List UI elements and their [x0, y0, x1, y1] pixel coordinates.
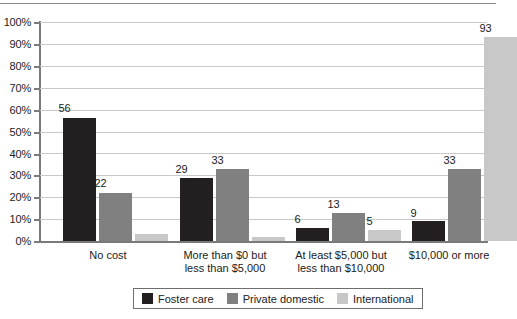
- x-axis-category-label-over-10000: $10,000 or more: [386, 249, 512, 262]
- y-axis-tick-label-30: 30%: [0, 169, 31, 181]
- bar-no-cost-private-domestic[interactable]: [99, 193, 132, 241]
- y-axis-tick-label-60: 60%: [0, 104, 31, 116]
- legend-swatch-international-icon: [337, 293, 348, 304]
- chart-legend: Foster care Private domestic Internation…: [133, 288, 423, 309]
- y-axis-tick-label-100: 100%: [0, 16, 31, 28]
- y-axis-tick-label-40: 40%: [0, 148, 31, 160]
- y-axis-tick-label-10: 10%: [0, 213, 31, 225]
- bar-value-no-cost-private-domestic: 22: [84, 177, 117, 189]
- gridline-60: [40, 110, 487, 111]
- legend-label-private-domestic: Private domestic: [243, 293, 324, 305]
- legend-item-private-domestic[interactable]: Private domestic: [227, 293, 324, 305]
- y-axis-tick-label-50: 50%: [0, 126, 31, 138]
- gridline-90: [40, 44, 487, 45]
- bar-under-5000-private-domestic[interactable]: [216, 169, 249, 241]
- legend-item-foster-care[interactable]: Foster care: [142, 293, 214, 305]
- bar-value-over-10000-foster-care: 9: [397, 207, 430, 219]
- gridline-50: [40, 132, 487, 133]
- bar-value-under-5000-private-domestic: 33: [201, 154, 234, 166]
- gridline-70: [40, 88, 487, 89]
- bar-over-10000-private-domestic[interactable]: [448, 169, 481, 241]
- legend-label-foster-care: Foster care: [158, 293, 214, 305]
- bar-value-no-cost-foster-care: 56: [48, 102, 81, 114]
- x-axis-category-label-5000-to-10000-line2: less than $10,000: [268, 262, 414, 275]
- legend-item-international[interactable]: International: [337, 293, 414, 305]
- gridline-30: [40, 175, 487, 176]
- y-axis-tick-label-70: 70%: [0, 82, 31, 94]
- legend-label-international: International: [353, 293, 414, 305]
- gridline-100: [40, 22, 487, 23]
- bar-value-5000-to-10000-private-domestic: 13: [317, 198, 350, 210]
- bar-over-10000-international[interactable]: [484, 37, 517, 241]
- legend-swatch-private-domestic-icon: [227, 293, 238, 304]
- bar-value-under-5000-foster-care: 29: [165, 163, 198, 175]
- bar-under-5000-foster-care[interactable]: [180, 178, 213, 242]
- bar-value-over-10000-private-domestic: 33: [433, 154, 466, 166]
- y-axis-tick-label-80: 80%: [0, 60, 31, 72]
- y-axis-tick-label-20: 20%: [0, 191, 31, 203]
- bar-over-10000-foster-care[interactable]: [412, 221, 445, 241]
- x-axis-line: [39, 241, 488, 243]
- y-axis-tick-label-90: 90%: [0, 38, 31, 50]
- bar-no-cost-international[interactable]: [135, 234, 168, 241]
- bar-value-5000-to-10000-international: 5: [353, 215, 386, 227]
- bar-5000-to-10000-foster-care[interactable]: [296, 228, 329, 241]
- top-divider-rule: [0, 3, 496, 4]
- bar-under-5000-international[interactable]: [252, 237, 285, 241]
- bar-value-5000-to-10000-foster-care: 6: [281, 213, 314, 225]
- legend-swatch-foster-care-icon: [142, 293, 153, 304]
- bar-value-over-10000-international: 93: [469, 22, 502, 34]
- y-axis-tick-label-0: 0%: [0, 235, 31, 247]
- bar-5000-to-10000-international[interactable]: [368, 230, 401, 241]
- gridline-80: [40, 66, 487, 67]
- gridline-40: [40, 153, 487, 154]
